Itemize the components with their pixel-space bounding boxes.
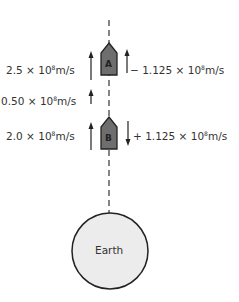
velocity-value: 1.125 xyxy=(145,130,175,142)
unit: m/s xyxy=(205,64,224,76)
times-sign: × xyxy=(176,64,185,76)
arrow-up-icon xyxy=(89,122,94,150)
arrow-down-icon xyxy=(126,121,131,146)
velocity-value: 2.5 xyxy=(6,64,23,76)
velocity-label-ship-a-right: − 1.125 × 108m/s xyxy=(130,64,224,76)
times-sign: × xyxy=(26,64,35,76)
velocity-value: 2.0 xyxy=(6,130,23,142)
diagram-canvas xyxy=(0,0,239,302)
unit: m/s xyxy=(55,130,74,142)
arrow-up-icon xyxy=(89,89,94,104)
arrow-up-icon xyxy=(125,49,130,73)
base: 10 xyxy=(40,95,53,107)
unit: m/s xyxy=(55,64,74,76)
velocity-value: 1.125 xyxy=(142,64,172,76)
base: 10 xyxy=(38,64,51,76)
velocity-label-ship-a: 2.5 × 108m/s xyxy=(6,64,75,76)
ship-b-label: B xyxy=(105,133,112,143)
times-sign: × xyxy=(179,130,188,142)
sign: + xyxy=(133,130,142,142)
times-sign: × xyxy=(26,130,35,142)
earth-label: Earth xyxy=(95,244,123,256)
base: 10 xyxy=(191,130,204,142)
unit: m/s xyxy=(57,95,76,107)
velocity-label-ship-b: 2.0 × 108m/s xyxy=(6,130,75,142)
ship-a-label: A xyxy=(105,59,112,69)
velocity-label-ship-b-right: + 1.125 × 108m/s xyxy=(133,130,227,142)
times-sign: × xyxy=(28,95,37,107)
base: 10 xyxy=(188,64,201,76)
unit: m/s xyxy=(208,130,227,142)
velocity-value: 0.50 xyxy=(1,95,24,107)
base: 10 xyxy=(38,130,51,142)
velocity-label-relative: 0.50 × 108m/s xyxy=(1,95,76,107)
arrow-up-icon xyxy=(89,51,94,80)
sign: − xyxy=(130,64,139,76)
